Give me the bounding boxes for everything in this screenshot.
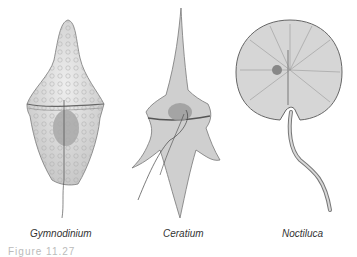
ceratium-illustration [132,8,220,218]
label-noctiluca: Noctiluca [282,228,323,239]
label-ceratium: Ceratium [163,228,204,239]
label-gymnodinium: Gymnodinium [30,228,92,239]
gymnodinium-illustration [27,20,104,218]
noctiluca-illustration [236,20,342,210]
figure-caption: Figure 11.27 [8,246,75,257]
